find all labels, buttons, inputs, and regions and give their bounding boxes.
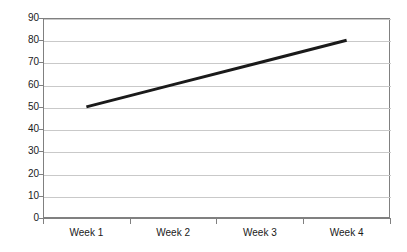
line-chart: 90 80 70 60 50 40 30 20 10 0 Week 1 Week… bbox=[0, 0, 407, 252]
series-layer bbox=[0, 0, 407, 252]
series-line bbox=[86, 40, 346, 107]
